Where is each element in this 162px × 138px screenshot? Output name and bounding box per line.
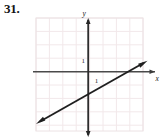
coordinate-plane: y x 1 1 — [0, 0, 162, 138]
x-axis-label: x — [155, 74, 160, 83]
x-tick-label-1: 1 — [95, 77, 99, 85]
graph-figure: 31. — [0, 0, 162, 138]
y-axis-label: y — [82, 9, 87, 18]
y-tick-label-1: 1 — [81, 57, 85, 65]
